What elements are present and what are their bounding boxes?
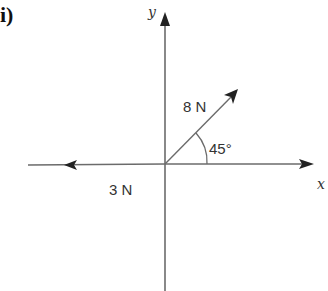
x-axis-label: x — [317, 176, 325, 192]
force-diagram — [0, 0, 328, 291]
force-8n-label: 8 N — [183, 98, 206, 115]
y-axis-label: y — [148, 4, 156, 20]
angle-label: 45° — [209, 140, 232, 157]
angle-arc — [196, 133, 207, 164]
force-3n-line — [28, 164, 165, 165]
force-3n-label: 3 N — [109, 181, 132, 198]
y-axis-arrowhead-icon — [160, 12, 170, 26]
